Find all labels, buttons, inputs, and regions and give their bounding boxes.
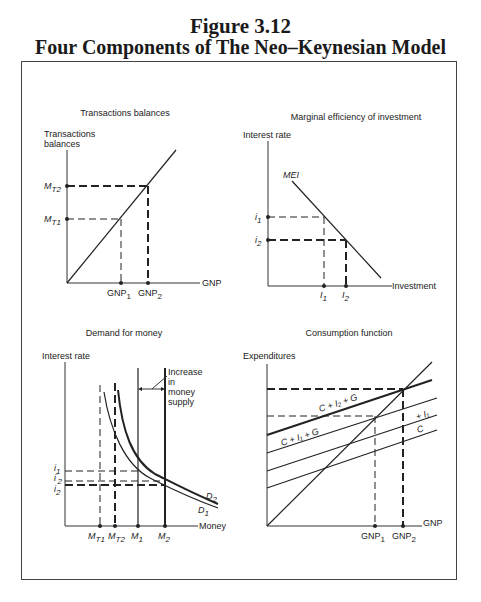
panel-demand-for-money: Demand for money Interest rate Money Inc… bbox=[42, 328, 227, 544]
x-axis-label: Money bbox=[199, 521, 227, 531]
tick-label-m2: M2 bbox=[158, 531, 171, 544]
curve-label-d2: D2 bbox=[206, 491, 218, 504]
panel-title: Transactions balances bbox=[80, 108, 170, 118]
point-marker bbox=[146, 281, 150, 285]
tick-label-mt1: MT1 bbox=[88, 531, 105, 544]
point-marker bbox=[266, 238, 270, 242]
point-marker bbox=[266, 215, 270, 219]
x-axis-label: Investment bbox=[392, 281, 437, 291]
tick-label-i2: i2 bbox=[255, 235, 262, 248]
panel-consumption-function: Consumption function Expenditures GNP C … bbox=[243, 328, 443, 544]
x-axis-label: GNP bbox=[202, 278, 222, 288]
arrow-head-left bbox=[138, 387, 142, 391]
point-marker bbox=[113, 524, 117, 528]
tick-label-I2: I2 bbox=[342, 290, 350, 303]
point-marker bbox=[401, 524, 405, 528]
mei-curve bbox=[292, 181, 381, 278]
tick-label-m1: M1 bbox=[131, 531, 143, 544]
tick-label-mt2: MT2 bbox=[44, 181, 61, 194]
tick-label-mt2: MT2 bbox=[108, 531, 125, 544]
point-marker bbox=[344, 284, 348, 288]
annotation-line: money bbox=[168, 387, 196, 397]
point-marker bbox=[373, 524, 377, 528]
line-label-plus-i1: + I₁ bbox=[415, 408, 431, 422]
annotation-line: supply bbox=[168, 397, 195, 407]
panel-title: Consumption function bbox=[305, 328, 392, 338]
diagram-canvas: .ax{stroke:#333;stroke-width:1;fill:none… bbox=[0, 0, 481, 602]
point-marker bbox=[119, 281, 123, 285]
curve-label-mei: MEI bbox=[283, 170, 300, 180]
tick-label-i1: i1 bbox=[255, 212, 261, 225]
y-axis-label: Expenditures bbox=[243, 351, 296, 361]
tick-label-I1: I1 bbox=[320, 290, 327, 303]
tick-label-gnp2: GNP2 bbox=[392, 531, 417, 544]
curve-label-d1: D1 bbox=[198, 505, 209, 518]
panel-title: Marginal efficiency of investment bbox=[291, 112, 422, 122]
y-axis-label: Transactions bbox=[44, 129, 96, 139]
tick-label-gnp1: GNP1 bbox=[107, 288, 132, 301]
point-marker bbox=[163, 524, 167, 528]
point-marker bbox=[322, 284, 326, 288]
panel-marginal-efficiency-of-investment: Marginal efficiency of investment Intere… bbox=[243, 112, 437, 303]
x-axis-label: GNP bbox=[423, 518, 443, 528]
point-marker bbox=[98, 524, 102, 528]
y-axis-label: Interest rate bbox=[243, 130, 291, 140]
annotation-line: Increase bbox=[168, 367, 203, 377]
y-axis-label: Interest rate bbox=[42, 351, 90, 361]
tick-label-mt1: MT1 bbox=[44, 214, 61, 227]
panel-title: Demand for money bbox=[86, 328, 163, 338]
tick-label-gnp1: GNP1 bbox=[361, 531, 386, 544]
annotation-line: in bbox=[168, 377, 175, 387]
panel-transactions-balances: Transactions balances Transactions balan… bbox=[44, 108, 222, 301]
y-axis-label: balances bbox=[44, 139, 81, 149]
tick-label-gnp2: GNP2 bbox=[138, 288, 163, 301]
line-label-c: C bbox=[416, 423, 426, 435]
point-marker bbox=[65, 217, 69, 221]
point-marker bbox=[136, 524, 140, 528]
point-marker bbox=[65, 184, 69, 188]
